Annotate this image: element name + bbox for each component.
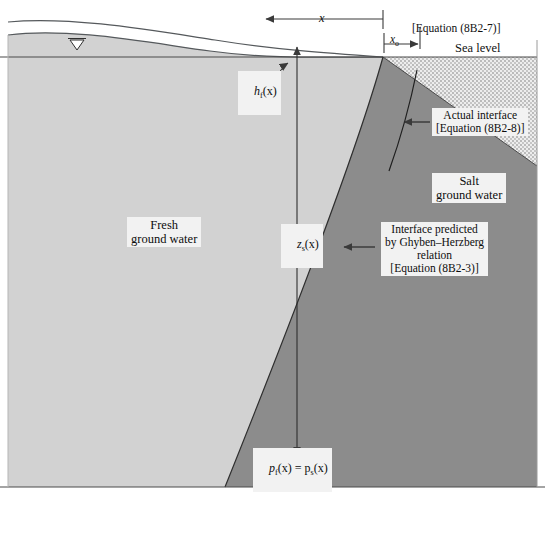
figure-canvas: x xo [Equation (8B2-7)] Sea level hf(x) … <box>0 0 545 558</box>
actual-interface-label: Actual interface [Equation (8B2-8)] <box>432 108 528 136</box>
x0-equation-label: [Equation (8B2-7)] <box>412 22 500 34</box>
x0-subscript: o <box>395 39 399 48</box>
zs-depth-label: zs(x) <box>281 224 323 268</box>
zs-arg: (x) <box>305 237 319 251</box>
ps-arg: (x) <box>314 461 328 475</box>
x-dimension-label: x <box>319 11 325 26</box>
sea-level-label: Sea level <box>455 41 500 56</box>
hf-arg: (x) <box>263 84 277 98</box>
hf-label: hf(x) <box>238 71 281 115</box>
ghyben-herzberg-label: Interface predicted by Ghyben–Herzberg r… <box>381 222 488 276</box>
pressure-balance-label: pf(x) = ps(x) <box>253 448 332 492</box>
pressure-balance-middle: (x) = p <box>278 461 311 475</box>
x0-dimension-label: xo <box>390 33 399 48</box>
salt-ground-water-label: Salt ground water <box>432 173 506 203</box>
fresh-ground-water-label: Fresh ground water <box>127 217 201 247</box>
